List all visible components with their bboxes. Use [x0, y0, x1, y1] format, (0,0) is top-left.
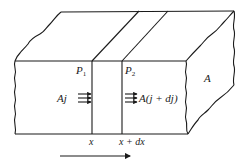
x-left-label: x [88, 136, 94, 147]
side-face [188, 11, 235, 134]
flux-in-arrows-icon [78, 94, 91, 102]
area-label: A [203, 72, 211, 84]
flux-in-label: Aj [56, 92, 67, 104]
slab-diagram: P1 P2 A Aj A(j + dj) x x + dx [0, 0, 248, 164]
x-right-label: x + dx [118, 136, 145, 147]
plane-p1-label: P1 [75, 64, 87, 78]
flux-out-arrows-icon [125, 94, 137, 102]
top-face [15, 11, 234, 61]
plane-p2-label: P2 [124, 64, 136, 78]
flux-out-label: A(j + dj) [138, 92, 178, 105]
